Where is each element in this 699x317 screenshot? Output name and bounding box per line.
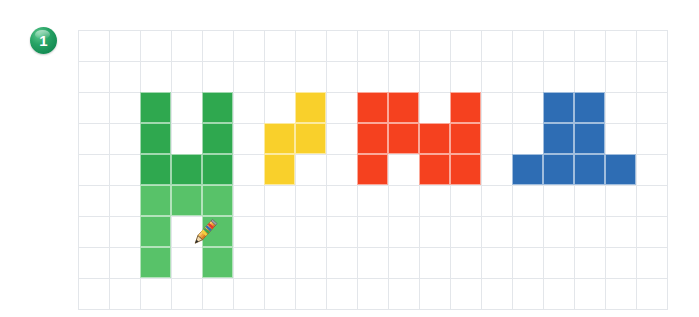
pixel-grid-canvas[interactable] [78, 30, 668, 310]
green-h-shape-cell[interactable] [171, 185, 202, 216]
green-h-shape-cell[interactable] [140, 154, 171, 185]
green-h-shape-cell[interactable] [202, 154, 233, 185]
red-m-shape-cell[interactable] [357, 123, 388, 154]
green-h-shape-cell[interactable] [202, 216, 233, 247]
green-h-shape-cell[interactable] [140, 216, 171, 247]
blue-pedestal-shape-cell[interactable] [543, 92, 574, 123]
blue-pedestal-shape-cell[interactable] [512, 154, 543, 185]
blue-pedestal-shape-cell[interactable] [574, 123, 605, 154]
green-h-shape-cell[interactable] [140, 247, 171, 278]
blue-pedestal-shape-cell[interactable] [543, 123, 574, 154]
blue-pedestal-shape-cell[interactable] [605, 154, 636, 185]
yellow-s-shape-cell[interactable] [295, 92, 326, 123]
red-m-shape-cell[interactable] [450, 154, 481, 185]
green-h-shape-cell[interactable] [140, 185, 171, 216]
blue-pedestal-shape-cell[interactable] [574, 154, 605, 185]
red-m-shape-cell[interactable] [450, 92, 481, 123]
yellow-s-shape-cell[interactable] [264, 123, 295, 154]
question-number-label: 1 [39, 32, 47, 49]
red-m-shape-cell[interactable] [450, 123, 481, 154]
red-m-shape-cell[interactable] [419, 123, 450, 154]
green-h-shape-cell[interactable] [140, 123, 171, 154]
red-m-shape-cell[interactable] [388, 92, 419, 123]
green-h-shape-cell[interactable] [140, 92, 171, 123]
green-h-shape-cell[interactable] [171, 154, 202, 185]
blue-pedestal-shape-cell[interactable] [543, 154, 574, 185]
exercise-stage: 1 [0, 0, 699, 317]
red-m-shape-cell[interactable] [388, 123, 419, 154]
yellow-s-shape-cell[interactable] [295, 123, 326, 154]
red-m-shape-cell[interactable] [357, 92, 388, 123]
green-h-shape-cell[interactable] [202, 247, 233, 278]
green-h-shape-cell[interactable] [202, 185, 233, 216]
yellow-s-shape-cell[interactable] [264, 154, 295, 185]
green-h-shape-cell[interactable] [202, 92, 233, 123]
question-number-badge: 1 [30, 27, 57, 54]
red-m-shape-cell[interactable] [357, 154, 388, 185]
green-h-shape-cell[interactable] [202, 123, 233, 154]
blue-pedestal-shape-cell[interactable] [574, 92, 605, 123]
red-m-shape-cell[interactable] [419, 154, 450, 185]
